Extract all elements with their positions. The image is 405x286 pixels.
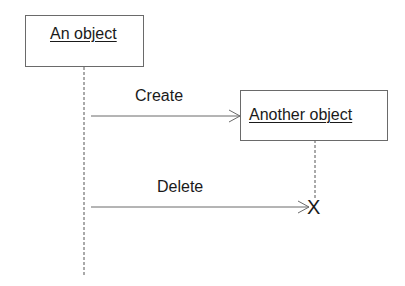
object-name: An object — [50, 25, 117, 43]
create-message-arrow — [91, 110, 240, 122]
delete-message-arrow — [91, 201, 309, 213]
object-name: Another object — [249, 106, 352, 124]
delete-message-label: Delete — [157, 178, 203, 196]
object-box-another-object: Another object — [240, 90, 388, 141]
create-message-label: Create — [135, 87, 183, 105]
object-box-an-object: An object — [25, 15, 144, 67]
destroy-x-icon: X — [307, 196, 320, 218]
